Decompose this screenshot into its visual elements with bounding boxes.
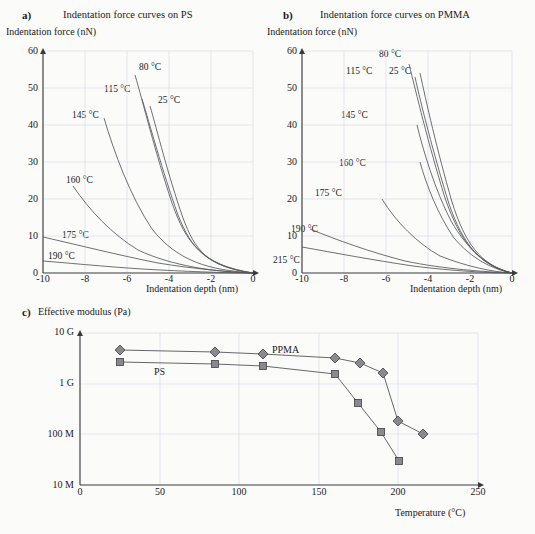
curve-190c	[310, 229, 512, 273]
panel-c-gridlines	[80, 333, 478, 485]
panel-b-gridlines	[302, 51, 512, 273]
curve-215c	[302, 247, 512, 273]
figure-container: a) Indentation force curves on PS Indent…	[0, 0, 535, 534]
curve-175c	[43, 237, 253, 273]
curve-115c	[415, 77, 512, 273]
curve-160c	[420, 162, 512, 273]
panel-b: b) Indentation force curves on PMMA Inde…	[265, 0, 535, 300]
curve-80c	[135, 75, 253, 273]
panel-c: c) Effective modulus (Pa) Temperature (°…	[0, 300, 535, 534]
panel-b-curves	[302, 64, 512, 273]
marker-square	[117, 359, 403, 465]
panel-c-plot	[0, 300, 535, 534]
curve-80c	[409, 64, 512, 273]
panel-b-plot	[265, 0, 535, 300]
panel-c-axes	[77, 330, 484, 488]
curve-145c	[104, 118, 253, 273]
panel-c-series-ps	[117, 359, 403, 465]
panel-c-series-ppma	[115, 345, 428, 439]
curve-25c	[150, 106, 253, 273]
panel-a-gridlines	[43, 51, 253, 273]
panel-a: a) Indentation force curves on PS Indent…	[0, 0, 268, 300]
panel-a-plot	[0, 0, 268, 300]
panel-a-curves	[43, 75, 253, 273]
marker-diamond	[115, 345, 428, 439]
